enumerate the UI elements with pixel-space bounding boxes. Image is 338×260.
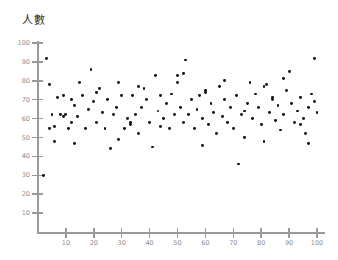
x-tick-label: 10 (54, 239, 78, 247)
data-point (302, 117, 305, 120)
y-tick-label: 80 (0, 77, 30, 85)
data-point (87, 108, 90, 111)
data-point (293, 121, 296, 124)
x-tick-mark (65, 228, 67, 238)
data-point (95, 121, 98, 124)
data-point (307, 142, 310, 145)
data-point (76, 115, 79, 118)
data-point (184, 59, 187, 62)
y-tick-mark (32, 156, 43, 158)
y-tick-label: 60 (0, 115, 30, 123)
x-tick-label: 90 (277, 239, 301, 247)
x-tick-mark (288, 228, 290, 238)
data-point (134, 113, 137, 116)
y-tick-mark (32, 99, 43, 101)
data-point (260, 123, 263, 126)
data-point (226, 121, 229, 124)
data-point (176, 74, 179, 77)
data-point (221, 115, 224, 118)
data-point (106, 98, 109, 101)
data-point (288, 70, 291, 73)
y-tick-label: 70 (0, 96, 30, 104)
data-point (240, 113, 243, 116)
x-tick-label: 60 (193, 239, 217, 247)
data-point (290, 102, 293, 105)
scatter-chart: 人數 102030405060708090100 102030405060708… (0, 0, 338, 260)
data-point (237, 163, 240, 166)
x-tick-mark (233, 228, 235, 238)
x-tick-mark (149, 228, 151, 238)
data-point (131, 94, 134, 97)
data-point (145, 98, 148, 101)
data-point (137, 85, 140, 88)
data-point (235, 94, 238, 97)
data-point (140, 106, 143, 109)
x-tick-label: 100 (305, 239, 329, 247)
data-point (218, 85, 221, 88)
data-point (53, 125, 56, 128)
x-tick-label: 80 (249, 239, 273, 247)
data-point (98, 87, 101, 90)
y-tick-label: 30 (0, 171, 30, 179)
x-axis-line (37, 232, 325, 234)
data-point (304, 132, 307, 135)
data-point (243, 136, 246, 139)
data-point (307, 106, 310, 109)
y-tick-mark (32, 61, 43, 63)
data-point (157, 110, 160, 113)
data-point (48, 83, 51, 86)
data-point (45, 57, 48, 60)
data-point (129, 121, 132, 124)
data-point (154, 74, 157, 77)
data-point (42, 174, 45, 177)
x-tick-label: 70 (221, 239, 245, 247)
y-tick-mark (32, 80, 43, 82)
y-tick-mark (32, 137, 43, 139)
data-point (126, 117, 129, 120)
data-point (316, 111, 319, 114)
data-point (70, 121, 73, 124)
data-point (196, 108, 199, 111)
x-tick-label: 20 (82, 239, 106, 247)
data-point (62, 94, 65, 97)
data-point (51, 113, 54, 116)
data-point (223, 79, 226, 82)
data-point (223, 98, 226, 101)
data-point (198, 94, 201, 97)
data-point (232, 127, 235, 130)
data-point (179, 106, 182, 109)
data-point (101, 111, 104, 114)
data-point (190, 98, 193, 101)
data-point (204, 89, 207, 92)
y-tick-label: 10 (0, 209, 30, 217)
data-point (137, 132, 140, 135)
data-point (73, 104, 76, 107)
data-point (182, 121, 185, 124)
data-point (207, 123, 210, 126)
y-tick-mark (32, 42, 43, 44)
data-point (67, 127, 70, 130)
data-point (173, 113, 176, 116)
data-point (92, 100, 95, 103)
data-point (313, 100, 316, 103)
data-point (282, 113, 285, 116)
data-point (109, 147, 112, 150)
data-point (310, 93, 313, 96)
x-tick-mark (316, 228, 318, 238)
data-point (268, 111, 271, 114)
data-point (95, 91, 98, 94)
data-point (165, 102, 168, 105)
data-point (159, 125, 162, 128)
data-point (117, 81, 120, 84)
data-point (162, 117, 165, 120)
data-point (48, 127, 51, 130)
x-tick-mark (260, 228, 262, 238)
data-point (265, 83, 268, 86)
data-point (257, 106, 260, 109)
x-tick-label: 40 (138, 239, 162, 247)
data-point (78, 81, 81, 84)
data-point (112, 113, 115, 116)
data-point (120, 94, 123, 97)
x-tick-mark (177, 228, 179, 238)
data-point (249, 81, 252, 84)
